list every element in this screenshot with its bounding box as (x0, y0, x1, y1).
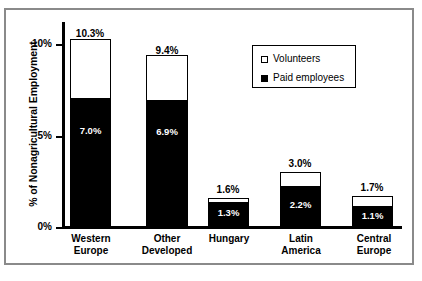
bar-segment-paid: 2.2% (281, 186, 320, 226)
legend-label: Paid employees (273, 73, 344, 83)
bar-segment-paid: 6.9% (147, 100, 187, 226)
bar-hungary[interactable]: 1.3% (208, 198, 249, 227)
bar-chart: % of Nonagricultural Employment 10% 5% 0… (0, 0, 422, 281)
bar-western-europe[interactable]: 7.0% (70, 39, 111, 227)
bar-paid-label: 6.9% (156, 127, 178, 137)
x-category-label: Hungary (206, 233, 252, 245)
x-category-label: Latin America (276, 233, 326, 256)
y-tick-0 (56, 227, 63, 229)
bar-segment-paid: 1.1% (353, 206, 392, 226)
bar-latin-america[interactable]: 2.2% (280, 172, 321, 227)
bar-other-developed[interactable]: 6.9% (146, 55, 188, 227)
bar-total-label: 3.0% (289, 159, 312, 169)
bar-segment-paid: 7.0% (71, 98, 110, 226)
bar-paid-label: 2.2% (290, 200, 312, 210)
legend-label: Volunteers (273, 54, 320, 64)
x-category-label: Central Europe (348, 233, 400, 256)
bar-total-label: 1.6% (217, 185, 240, 195)
bar-paid-label: 1.3% (218, 208, 240, 218)
y-tick-label-10: 10% (26, 39, 52, 49)
bar-central-europe[interactable]: 1.1% (352, 196, 393, 227)
y-axis-line (62, 22, 65, 228)
y-axis-label: % of Nonagricultural Employment (27, 19, 39, 229)
y-tick-label-0: 0% (26, 222, 52, 232)
bar-segment-paid: 1.3% (209, 202, 248, 226)
x-category-label: Other Developed (134, 233, 200, 256)
bar-total-label: 1.7% (361, 183, 384, 193)
legend-item-volunteers: Volunteers (261, 51, 355, 67)
hollow-square-icon (261, 56, 268, 63)
bar-paid-label: 1.1% (362, 211, 384, 221)
y-tick-label-5: 5% (26, 131, 52, 141)
chart-legend: Volunteers Paid employees (252, 45, 356, 88)
legend-item-paid-employees: Paid employees (261, 70, 355, 86)
x-category-label: Western Europe (62, 233, 120, 256)
y-tick-10 (56, 44, 63, 46)
y-tick-5 (56, 136, 63, 138)
filled-square-icon (261, 75, 268, 82)
bar-paid-label: 7.0% (80, 126, 102, 136)
bar-total-label: 10.3% (76, 29, 104, 39)
